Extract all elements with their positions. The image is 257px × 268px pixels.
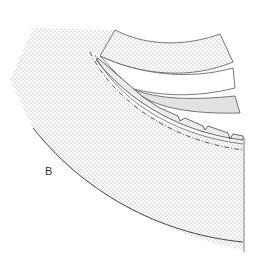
cross-section-diagram: [0, 0, 257, 268]
region-label-b: B: [45, 165, 52, 177]
